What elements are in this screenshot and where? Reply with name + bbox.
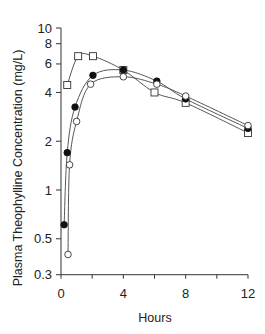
y-tick-label: 1 xyxy=(45,183,52,198)
data-point-square xyxy=(75,53,82,60)
chart: 0.30.5124681004812 Plasma Theophylline C… xyxy=(0,0,265,334)
data-point-filled-circle xyxy=(90,72,97,79)
y-axis-title: Plasma Theophylline Concentration (mg/L) xyxy=(11,50,25,287)
data-point-open-circle xyxy=(120,73,127,80)
x-tick-label: 8 xyxy=(182,286,189,301)
x-axis-title: Hours xyxy=(138,311,171,325)
y-tick-label: 2 xyxy=(45,134,52,149)
x-tick-label: 0 xyxy=(57,286,64,301)
x-tick-label: 12 xyxy=(241,286,255,301)
data-point-open-circle xyxy=(66,162,73,169)
data-point-open-circle xyxy=(182,93,189,100)
x-tick-label: 4 xyxy=(120,286,127,301)
data-point-filled-circle xyxy=(61,221,68,228)
series-line-open-circle xyxy=(68,77,248,255)
data-point-square xyxy=(64,81,71,88)
series-markers xyxy=(61,53,252,258)
data-point-filled-circle xyxy=(64,149,71,156)
y-tick-label: 0.5 xyxy=(34,231,52,246)
data-point-open-circle xyxy=(87,81,94,88)
y-tick-label: 8 xyxy=(45,36,52,51)
y-tick-label: 6 xyxy=(45,56,52,71)
data-point-square xyxy=(89,53,96,60)
y-tick-label: 4 xyxy=(45,85,52,100)
axes: 0.30.5124681004812 xyxy=(34,21,255,301)
data-point-open-circle xyxy=(73,118,80,125)
y-tick-label: 10 xyxy=(38,21,52,36)
data-point-open-circle xyxy=(154,81,161,88)
data-point-open-circle xyxy=(65,251,72,258)
data-point-open-circle xyxy=(245,122,252,129)
data-point-filled-circle xyxy=(72,104,79,111)
data-point-square xyxy=(151,89,158,96)
y-tick-label: 0.3 xyxy=(34,267,52,282)
data-point-filled-circle xyxy=(120,67,127,74)
